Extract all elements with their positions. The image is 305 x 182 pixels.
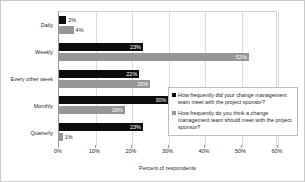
bar-value-label: 25% — [137, 80, 148, 88]
x-axis-tick-label: 0% — [54, 148, 62, 154]
bar-value-label: 22% — [126, 70, 137, 78]
x-axis-tick-label: 60% — [271, 148, 282, 154]
bar-chart-figure: 2%4%23%52%22%25%30%18%23%1% DailyWeeklyE… — [0, 0, 305, 182]
chart-legend: How frequently did your change managemen… — [168, 87, 298, 136]
x-axis-tick-label: 30% — [162, 148, 173, 154]
bar: 2% — [59, 16, 66, 24]
x-axis-tick-label: 50% — [235, 148, 246, 154]
bar: 52% — [59, 53, 249, 61]
legend-label: How frequently do you think a change man… — [178, 110, 294, 131]
bar: 23% — [59, 43, 143, 51]
x-axis-tick-labels: 0%10%20%30%40%50%60% — [58, 148, 277, 158]
bar: 23% — [59, 123, 143, 131]
bar-group: 2%4% — [59, 12, 276, 39]
bar: 30% — [59, 96, 169, 104]
bar-group: 23%52% — [59, 39, 276, 66]
legend-swatch-icon — [172, 111, 176, 115]
y-axis-label-daily: Daily — [41, 11, 53, 38]
bar-value-label: 1% — [65, 133, 73, 141]
legend-label: How frequently did your change managemen… — [178, 92, 294, 106]
bar: 1% — [59, 133, 63, 141]
bar-value-label: 52% — [236, 53, 247, 61]
bar-value-label: 23% — [130, 123, 141, 131]
bar-value-label: 2% — [68, 16, 76, 24]
bar-value-label: 30% — [155, 96, 166, 104]
bar-value-label: 18% — [112, 106, 123, 114]
bar-value-label: 4% — [76, 26, 84, 34]
x-axis-tick-label: 10% — [89, 148, 100, 154]
y-axis-label-weekly: Weekly — [35, 38, 53, 65]
x-axis-title: Percent of respondents — [58, 165, 277, 171]
y-axis-label-every-other-week: Every other week — [11, 65, 54, 92]
legend-entry[interactable]: How frequently do you think a change man… — [172, 110, 294, 131]
y-axis-category-labels: DailyWeeklyEvery other weekMonthlyQuarte… — [1, 11, 56, 146]
bar: 18% — [59, 106, 125, 114]
bar: 4% — [59, 26, 74, 34]
bar: 22% — [59, 70, 139, 78]
bar-value-label: 23% — [130, 43, 141, 51]
x-axis-tick-label: 40% — [198, 148, 209, 154]
y-axis-label-monthly: Monthly — [34, 92, 53, 119]
x-axis-tick-label: 20% — [125, 148, 136, 154]
legend-entry[interactable]: How frequently did your change managemen… — [172, 92, 294, 106]
legend-swatch-icon — [172, 93, 176, 97]
y-axis-label-quarterly: Quarterly — [30, 119, 53, 146]
bar: 25% — [59, 80, 150, 88]
